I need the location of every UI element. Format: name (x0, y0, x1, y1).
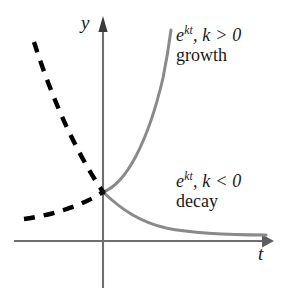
growth-word: growth (176, 46, 241, 65)
decay-annotation: ekt, k < 0 decay (176, 172, 241, 212)
y-axis-label: y (81, 13, 89, 34)
growth-exponent: kt (184, 24, 193, 36)
growth-base: e (176, 25, 184, 45)
y-axis-arrowhead-icon (98, 16, 107, 32)
decay-word: decay (176, 192, 241, 211)
decay-condition: , k < 0 (193, 171, 242, 191)
exponential-growth-decay-figure: y t ekt, k > 0 growth ekt, k < 0 decay (0, 0, 292, 303)
plot-canvas (0, 0, 292, 303)
t-axis-label: t (258, 244, 263, 265)
y-intercept-point (100, 189, 105, 194)
dashed-decay-mirror-curve (24, 192, 103, 219)
growth-curve (103, 30, 171, 192)
dashed-growth-mirror-curve (34, 42, 103, 192)
growth-condition: , k > 0 (193, 25, 242, 45)
growth-formula: ekt, k > 0 (176, 26, 241, 45)
growth-annotation: ekt, k > 0 growth (176, 26, 241, 66)
decay-base: e (176, 171, 184, 191)
t-axis (14, 235, 274, 248)
y-axis (98, 16, 107, 288)
decay-formula: ekt, k < 0 (176, 172, 241, 191)
decay-exponent: kt (184, 170, 193, 182)
